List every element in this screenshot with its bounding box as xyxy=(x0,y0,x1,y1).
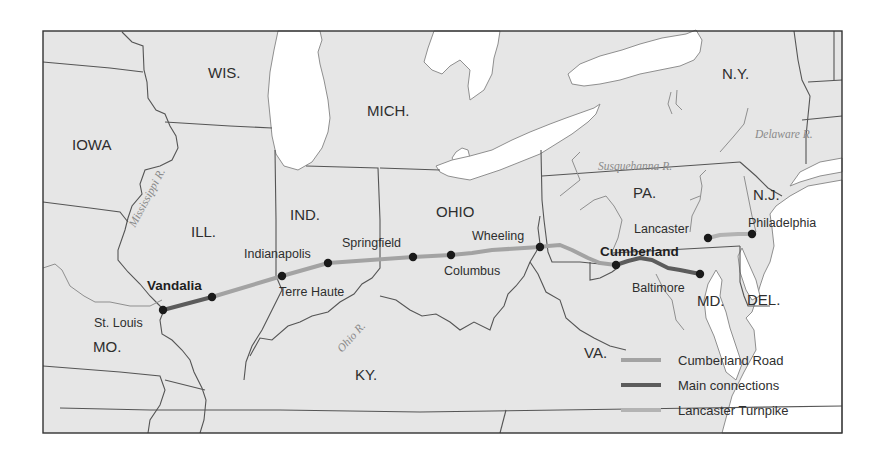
state-label-pa: PA. xyxy=(633,184,656,201)
city-label: Philadelphia xyxy=(748,216,816,230)
river-label-delaware-r: Delaware R. xyxy=(754,128,813,140)
state-label-del: DEL. xyxy=(747,291,780,308)
city-dot-icon xyxy=(612,261,620,269)
city-label: Terre Haute xyxy=(279,285,344,299)
state-label-iowa: IOWA xyxy=(72,136,111,153)
city-label: Columbus xyxy=(444,264,500,278)
city-label: Springfield xyxy=(342,236,401,250)
cumberland-road-map: WIS.IOWAMICH.N.Y.ILL.IND.OHIOPA.N.J.MO.K… xyxy=(0,0,874,460)
city-label: Vandalia xyxy=(147,278,202,293)
city-dot-icon xyxy=(208,293,216,301)
city-dot-icon xyxy=(324,259,332,267)
state-label-ohio: OHIO xyxy=(436,203,474,220)
state-label-n-j: N.J. xyxy=(753,186,780,203)
state-label-n-y: N.Y. xyxy=(722,65,749,82)
city-dot-icon xyxy=(704,234,712,242)
legend-label: Main connections xyxy=(678,378,780,393)
city-dot-icon xyxy=(748,230,756,238)
city-dot-icon xyxy=(536,243,544,251)
state-label-ky: KY. xyxy=(355,366,377,383)
city-label: Indianapolis xyxy=(244,247,311,261)
land-area xyxy=(43,31,842,433)
city-dot-icon xyxy=(278,272,286,280)
state-label-va: VA. xyxy=(584,344,607,361)
state-label-ill: ILL. xyxy=(191,223,216,240)
state-label-wis: WIS. xyxy=(208,64,241,81)
city-dot-icon xyxy=(159,306,167,314)
city-label: Cumberland xyxy=(600,244,679,259)
state-label-ind: IND. xyxy=(290,206,320,223)
river-label-susquehanna-r: Susquehanna R. xyxy=(598,160,672,173)
city-dot-icon xyxy=(696,270,704,278)
city-label: Baltimore xyxy=(632,281,685,295)
city-dot-icon xyxy=(409,253,417,261)
city-label: Wheeling xyxy=(472,229,524,243)
state-label-md: MD. xyxy=(697,292,725,309)
state-label-mo: MO. xyxy=(93,338,121,355)
legend-label: Cumberland Road xyxy=(678,353,784,368)
city-label: St. Louis xyxy=(94,316,143,330)
city-label: Lancaster xyxy=(634,222,689,236)
city-dot-icon xyxy=(447,251,455,259)
legend-label: Lancaster Turnpike xyxy=(678,403,789,418)
state-label-mich: MICH. xyxy=(367,102,410,119)
